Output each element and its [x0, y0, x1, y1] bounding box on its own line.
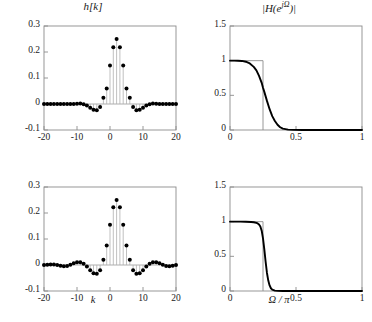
xtick-label-top-left-0: -20 — [29, 132, 59, 142]
ytick-label-top-right-1: 0.5 — [190, 88, 226, 98]
ytick-label-top-left-1: 0 — [4, 97, 40, 107]
ytick-label-bottom-right-1: 0.5 — [190, 249, 226, 259]
panel-top-right-magnitude-response: |H(ejΩ)| 00.511.500.51 — [186, 0, 372, 161]
ytick-label-bottom-right-3: 1.5 — [190, 180, 226, 190]
panel-bottom-left-impulse-response: k -0.100.10.20.3-20-1001020 — [0, 161, 186, 322]
xtick-label-bottom-left-3: 10 — [128, 293, 158, 303]
figure-canvas: h[k] -0.100.10.20.3-20-1001020 |H(ejΩ)| … — [0, 0, 372, 322]
xtick-label-top-left-1: -10 — [62, 132, 92, 142]
ytick-label-bottom-left-3: 0.2 — [4, 206, 40, 216]
xtick-label-bottom-left-2: 0 — [95, 293, 125, 303]
ytick-label-top-left-3: 0.2 — [4, 45, 40, 55]
xtick-label-bottom-right-2: 1 — [347, 293, 372, 303]
xtick-label-bottom-left-1: -10 — [62, 293, 92, 303]
ytick-label-bottom-left-2: 0.1 — [4, 232, 40, 242]
xtick-label-bottom-left-0: -20 — [29, 293, 59, 303]
xtick-label-top-right-2: 1 — [347, 132, 372, 142]
xtick-label-bottom-right-0: 0 — [215, 293, 245, 303]
ytick-label-top-right-2: 1 — [190, 54, 226, 64]
xaxis-label-omega-over-pi: Ω / π — [186, 294, 372, 305]
panel-top-left-impulse-response: h[k] -0.100.10.20.3-20-1001020 — [0, 0, 186, 161]
xtick-label-top-left-3: 10 — [128, 132, 158, 142]
ytick-label-bottom-right-2: 1 — [190, 215, 226, 225]
xaxis-label-k: k — [0, 294, 186, 305]
ytick-label-top-left-2: 0.1 — [4, 71, 40, 81]
ytick-label-bottom-left-1: 0 — [4, 258, 40, 268]
xtick-label-bottom-right-1: 0.5 — [281, 293, 311, 303]
xtick-label-top-right-0: 0 — [215, 132, 245, 142]
panel-bottom-right-magnitude-response: Ω / π 00.511.500.51 — [186, 161, 372, 322]
xtick-label-top-left-2: 0 — [95, 132, 125, 142]
ytick-label-top-right-3: 1.5 — [190, 19, 226, 29]
ytick-label-top-left-4: 0.3 — [4, 19, 40, 29]
xtick-label-top-right-1: 0.5 — [281, 132, 311, 142]
ytick-label-bottom-left-4: 0.3 — [4, 180, 40, 190]
